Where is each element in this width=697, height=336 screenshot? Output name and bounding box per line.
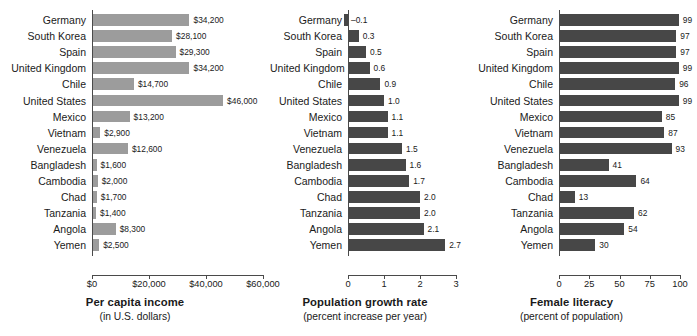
bar: [92, 111, 130, 123]
bar-row: Spain0.5: [270, 44, 460, 60]
bar-value-label: 1.0: [388, 93, 400, 109]
bar-value-label: 62: [638, 205, 647, 221]
category-label: Tanzania: [0, 205, 86, 221]
category-label: Chile: [0, 76, 86, 92]
bar-value-label: $2,500: [103, 237, 129, 253]
bar-value-label: 1.1: [392, 109, 404, 125]
bar-row: Cambodia1.7: [270, 173, 460, 189]
bar: [92, 46, 176, 58]
bar-value-label: 99: [683, 60, 692, 76]
category-label: Germany: [0, 12, 86, 28]
bar-value-label: 30: [599, 237, 608, 253]
bar: [559, 95, 679, 107]
bar-row: Angola$8,300: [0, 221, 270, 237]
bar-row: Cambodia64: [460, 173, 683, 189]
bar-row: Vietnam$2,900: [0, 125, 270, 141]
category-label: Chad: [0, 189, 86, 205]
bar-row: Angola2.1: [270, 221, 460, 237]
bar-value-label: 97: [680, 44, 689, 60]
bar: [348, 175, 409, 187]
bar-row: Bangladesh$1,600: [0, 157, 270, 173]
bar-row: United Kingdom0.6: [270, 60, 460, 76]
category-label: Yemen: [460, 237, 553, 253]
category-label: Vietnam: [460, 125, 553, 141]
category-label: Chad: [270, 189, 342, 205]
value-axis-line: [348, 275, 456, 276]
bar-value-label: 1.7: [413, 173, 425, 189]
chart-title: Female literacy: [460, 296, 683, 308]
bar: [559, 159, 609, 171]
bar: [348, 78, 380, 90]
bar-row: South Korea0.3: [270, 28, 460, 44]
bar-value-label: 99: [683, 12, 692, 28]
bar: [92, 78, 134, 90]
bar-row: United States1.0: [270, 93, 460, 109]
bar-row: Venezuela93: [460, 141, 683, 157]
bar-value-label: 99: [683, 93, 692, 109]
bar-row: Chile96: [460, 76, 683, 92]
bar-value-label: 97: [680, 28, 689, 44]
bar-value-label: 1.5: [406, 141, 418, 157]
bar-row: Tanzania62: [460, 205, 683, 221]
bar-row: Vietnam1.1: [270, 125, 460, 141]
category-label: South Korea: [0, 28, 86, 44]
category-label: Angola: [0, 221, 86, 237]
bar-row: Venezuela$12,600: [0, 141, 270, 157]
category-label: Bangladesh: [460, 157, 553, 173]
chart-subtitle: (percent of population): [460, 311, 683, 322]
category-label: South Korea: [270, 28, 342, 44]
bar: [92, 30, 172, 42]
category-label: Germany: [270, 12, 342, 28]
category-label: Tanzania: [460, 205, 553, 221]
bar-value-label: $14,700: [138, 76, 168, 92]
category-label: Bangladesh: [0, 157, 86, 173]
bar-row: Venezuela1.5: [270, 141, 460, 157]
bar: [92, 143, 128, 155]
axis-tick-label: 100: [640, 279, 697, 289]
bar-row: Yemen$2,500: [0, 237, 270, 253]
bar: [559, 143, 672, 155]
bar: [348, 159, 406, 171]
category-label: Angola: [460, 221, 553, 237]
category-label: Venezuela: [270, 141, 342, 157]
bar: [348, 223, 424, 235]
category-label: Vietnam: [0, 125, 86, 141]
bar-row: United States99: [460, 93, 683, 109]
bar-row: Yemen2.7: [270, 237, 460, 253]
bar-value-label: 2.0: [424, 205, 436, 221]
bar-value-label: 2.1: [428, 221, 440, 237]
bar: [559, 239, 595, 251]
bar-value-label: 13: [579, 189, 588, 205]
category-label: Spain: [460, 44, 553, 60]
bar: [348, 127, 388, 139]
category-label: Cambodia: [0, 173, 86, 189]
bar-row: Yemen30: [460, 237, 683, 253]
category-label: Yemen: [0, 237, 86, 253]
category-label: Mexico: [460, 109, 553, 125]
bar-row: United Kingdom99: [460, 60, 683, 76]
bar: [92, 127, 100, 139]
category-label: United Kingdom: [270, 60, 342, 76]
bar-row: Mexico85: [460, 109, 683, 125]
category-label: Spain: [270, 44, 342, 60]
bar-row: Tanzania$1,400: [0, 205, 270, 221]
bar: [559, 207, 634, 219]
chart-subtitle: (in U.S. dollars): [0, 311, 270, 322]
bar-row: Bangladesh41: [460, 157, 683, 173]
bar: [92, 62, 189, 74]
bar: [559, 62, 679, 74]
bar: [348, 143, 402, 155]
bar-value-label: 41: [613, 157, 622, 173]
chart-panel-female-literacy: Germany99South Korea97Spain97United King…: [460, 0, 683, 336]
bar-value-label: $46,000: [227, 93, 257, 109]
bar-value-label: $34,200: [193, 12, 223, 28]
category-axis-line: [559, 10, 560, 256]
bar-value-label: $2,900: [104, 125, 130, 141]
bar: [348, 95, 384, 107]
bar-row: Germany99: [460, 12, 683, 28]
value-axis-line: [92, 275, 263, 276]
bar-value-label: $29,300: [180, 44, 210, 60]
bar-value-label: $28,100: [176, 28, 206, 44]
bar-row: United States$46,000: [0, 93, 270, 109]
bar-row: Tanzania2.0: [270, 205, 460, 221]
